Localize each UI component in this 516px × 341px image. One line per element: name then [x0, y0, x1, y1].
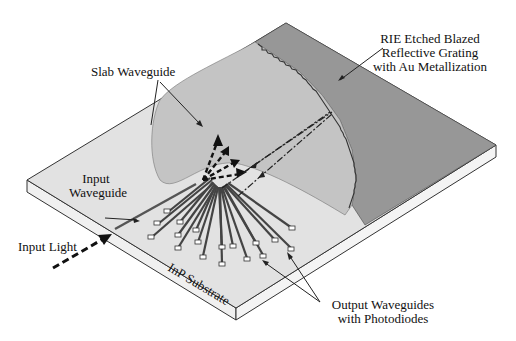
input-waveguide-label-line1: Input [82, 171, 110, 186]
output-label-line1: Output Waveguides [332, 297, 434, 312]
output-label-line2: with Photodiodes [338, 311, 429, 326]
echelle-grating-diagram: RIE Etched Blazed Reflective Grating wit… [0, 0, 516, 341]
slab-waveguide-label: Slab Waveguide [91, 64, 176, 79]
input-waveguide-label-line2: Waveguide [69, 185, 127, 200]
grating-label-line2: Reflective Grating [382, 45, 479, 60]
input-light-label: Input Light [18, 239, 77, 254]
grating-label-line1: RIE Etched Blazed [380, 31, 480, 46]
grating-label-line3: with Au Metallization [373, 59, 488, 74]
